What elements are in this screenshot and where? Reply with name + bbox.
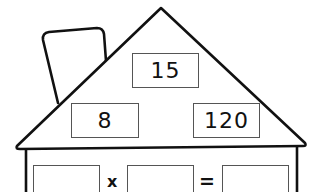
roof-left-number-box: 8 bbox=[71, 103, 139, 138]
equals-sign: = bbox=[199, 170, 215, 192]
roof-right-number: 120 bbox=[204, 108, 249, 133]
roof-right-number-box: 120 bbox=[193, 103, 260, 138]
equation-operand2-box[interactable] bbox=[127, 165, 194, 192]
roof-top-number-box: 15 bbox=[132, 53, 199, 88]
roof-top-number: 15 bbox=[151, 58, 181, 83]
equation-operand1-box[interactable] bbox=[33, 165, 100, 192]
multiply-sign: x bbox=[107, 172, 117, 191]
roof-left-number: 8 bbox=[98, 108, 113, 133]
house-outline bbox=[0, 0, 315, 192]
equation-result-box[interactable] bbox=[222, 165, 289, 192]
